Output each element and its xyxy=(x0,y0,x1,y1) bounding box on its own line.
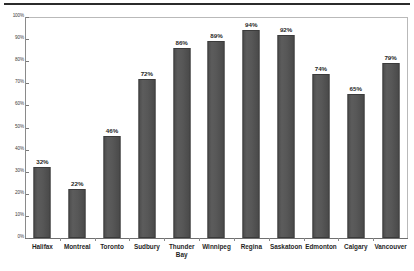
bar[interactable] xyxy=(138,79,155,238)
bar-group: 46% xyxy=(95,17,130,238)
bar-value-label: 92% xyxy=(280,26,292,33)
y-axis-tick-label: 80% xyxy=(15,57,24,62)
bar-group: 79% xyxy=(373,17,408,238)
bar-group: 22% xyxy=(60,17,95,238)
bar-group: 92% xyxy=(269,17,304,238)
x-axis-tick-label: Halifax xyxy=(25,243,60,251)
bar-group: 32% xyxy=(25,17,60,238)
x-axis-tick-mark xyxy=(164,238,165,241)
bar[interactable] xyxy=(243,30,260,238)
x-axis-tick-label: Sudbury xyxy=(129,243,164,251)
bar-group: 74% xyxy=(304,17,339,238)
x-axis-tick-mark xyxy=(373,238,374,241)
y-axis-tick-label: 60% xyxy=(15,101,24,106)
y-axis-tick-label: 20% xyxy=(15,190,24,195)
bar[interactable] xyxy=(278,35,295,238)
bar[interactable] xyxy=(69,189,86,238)
x-axis-tick-mark xyxy=(60,238,61,241)
bar-group: 72% xyxy=(129,17,164,238)
x-axis-tick-label: Edmonton xyxy=(304,243,339,251)
bar[interactable] xyxy=(347,94,364,238)
x-axis-tick-label: Winnipeg xyxy=(199,243,234,251)
x-axis-tick-mark xyxy=(269,238,270,241)
x-axis-tick-mark xyxy=(234,238,235,241)
bar-chart-figure: 0%10%20%30%40%50%60%70%80%90%100% 32%22%… xyxy=(0,0,414,271)
bar-value-label: 74% xyxy=(315,65,327,72)
y-axis-tick-label: 30% xyxy=(15,168,24,173)
y-axis-tick-mark xyxy=(26,238,29,239)
bar-value-label: 46% xyxy=(106,127,118,134)
x-axis-tick-mark xyxy=(199,238,200,241)
x-axis-tick-label: Montreal xyxy=(60,243,95,251)
bar-value-label: 94% xyxy=(245,21,257,28)
y-axis-tick-label: 70% xyxy=(15,79,24,84)
bar-group: 94% xyxy=(234,17,269,238)
bar-group: 86% xyxy=(164,17,199,238)
x-axis-tick-labels: HalifaxMontrealTorontoSudburyThunder Bay… xyxy=(25,243,408,269)
bar[interactable] xyxy=(173,48,190,238)
x-axis-tick-label: Toronto xyxy=(95,243,130,251)
bar[interactable] xyxy=(104,136,121,238)
bar[interactable] xyxy=(34,167,51,238)
bar-value-label: 65% xyxy=(350,85,362,92)
y-axis-tick-label: 40% xyxy=(15,146,24,151)
y-axis-tick-label: 50% xyxy=(15,124,24,129)
x-axis-tick-mark xyxy=(304,238,305,241)
y-axis-tick-label: 100% xyxy=(13,13,24,18)
bar-value-label: 32% xyxy=(36,158,48,165)
x-axis-tick-mark xyxy=(129,238,130,241)
bar-value-label: 22% xyxy=(71,180,83,187)
x-axis-tick-label: Calgary xyxy=(338,243,373,251)
bar-group: 65% xyxy=(338,17,373,238)
y-axis-tick-label: 0% xyxy=(18,234,24,239)
bar[interactable] xyxy=(312,74,329,238)
bar[interactable] xyxy=(208,41,225,238)
top-divider-rule xyxy=(4,3,410,5)
x-axis-line xyxy=(25,238,408,239)
x-axis-tick-mark xyxy=(95,238,96,241)
x-axis-tick-label: Saskatoon xyxy=(269,243,304,251)
x-axis-tick-label: Vancouver xyxy=(373,243,408,251)
bars-layer: 32%22%46%72%86%89%94%92%74%65%79% xyxy=(25,17,408,238)
x-axis-tick-label: Thunder Bay xyxy=(164,243,199,259)
y-axis-tick-label: 90% xyxy=(15,35,24,40)
y-axis-tick-label: 10% xyxy=(15,212,24,217)
bar-value-label: 86% xyxy=(175,39,187,46)
x-axis-tick-label: Regina xyxy=(234,243,269,251)
x-axis-tick-mark xyxy=(338,238,339,241)
bar-group: 89% xyxy=(199,17,234,238)
bar[interactable] xyxy=(382,63,399,238)
bar-value-label: 89% xyxy=(210,32,222,39)
bar-value-label: 79% xyxy=(384,54,396,61)
bar-value-label: 72% xyxy=(141,70,153,77)
